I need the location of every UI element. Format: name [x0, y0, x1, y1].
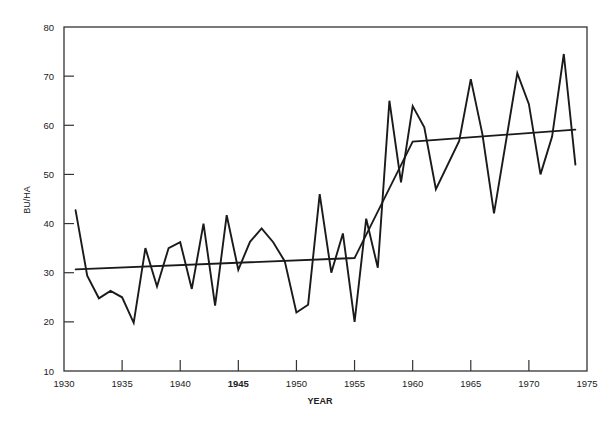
y-tick-label: 10: [43, 366, 54, 377]
yield-line: [76, 54, 576, 323]
x-tick-label: 1955: [344, 378, 365, 389]
x-tick-label: 1960: [402, 378, 423, 389]
x-tick-label: 1945: [228, 378, 250, 389]
x-tick-label: 1970: [518, 378, 539, 389]
x-tick-label: 1950: [286, 378, 307, 389]
plot-frame: [64, 27, 587, 371]
y-tick-label: 60: [43, 120, 54, 131]
chart-container: 1020304050607080 19301935194019451950195…: [0, 0, 610, 425]
x-tick-label: 1940: [170, 378, 191, 389]
y-tick-label: 30: [43, 267, 54, 278]
y-axis-ticks: 1020304050607080: [43, 22, 74, 377]
data-series: [76, 54, 576, 323]
y-tick-label: 70: [43, 71, 54, 82]
y-tick-label: 20: [43, 316, 54, 327]
x-tick-label: 1930: [53, 378, 74, 389]
x-tick-label: 1965: [460, 378, 481, 389]
y-axis-label: BU/HA: [22, 186, 32, 214]
y-tick-label: 80: [43, 22, 54, 33]
x-axis-ticks: 1930193519401945195019551960196519701975: [53, 360, 597, 389]
trend-line: [76, 130, 576, 270]
x-tick-label: 1975: [576, 378, 597, 389]
x-tick-label: 1935: [112, 378, 133, 389]
y-tick-label: 50: [43, 169, 54, 180]
x-axis-label: YEAR: [307, 396, 333, 406]
line-chart: 1020304050607080 19301935194019451950195…: [0, 0, 610, 425]
plot-border: [64, 27, 587, 371]
y-tick-label: 40: [43, 218, 54, 229]
